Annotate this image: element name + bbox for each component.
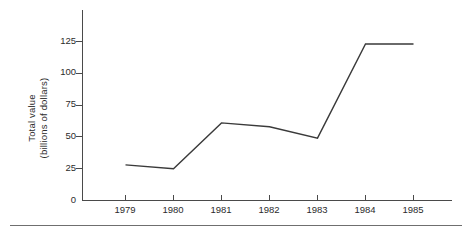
footer-divider [10, 225, 462, 226]
x-tick-label: 1984 [345, 204, 385, 215]
x-tick-label: 1980 [153, 204, 193, 215]
x-tick-label: 1979 [105, 204, 145, 215]
x-axis-tick-labels: 1979 1980 1981 1982 1983 1984 1985 [0, 0, 473, 235]
line-chart-figure: Total value (billions of dollars) 125 10… [0, 0, 473, 235]
x-tick-label: 1983 [297, 204, 337, 215]
x-tick-label: 1982 [249, 204, 289, 215]
x-tick-label: 1981 [201, 204, 241, 215]
x-tick-label: 1985 [393, 204, 433, 215]
